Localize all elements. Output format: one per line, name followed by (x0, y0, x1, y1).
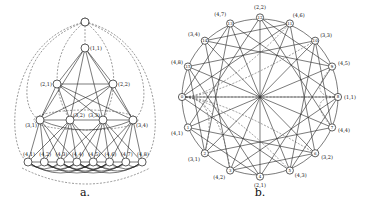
node-number: 8 (337, 94, 340, 99)
label-4-4: (4,4) (72, 151, 84, 157)
node-label: (3,3) (320, 32, 332, 38)
node-2-1 (53, 80, 61, 88)
label-4-3: (4,3) (56, 151, 68, 157)
label-3-1: (3,1) (25, 122, 37, 128)
node-4-3 (57, 158, 65, 166)
node-2-2 (109, 80, 117, 88)
node-label: (1,1) (344, 94, 356, 100)
label-2-1: (2,1) (40, 81, 52, 87)
node-label: (4,5) (338, 60, 350, 66)
node-label: (4,4) (338, 127, 350, 133)
node-4-7 (122, 158, 130, 166)
node-number: 0 (181, 94, 184, 99)
label-3-2: (3,2) (73, 112, 85, 118)
node-label: (4,6) (293, 12, 305, 18)
node-number: 1 (187, 125, 190, 130)
node-label: (4,2) (213, 174, 225, 180)
node-number: 9 (331, 64, 334, 69)
panel-a-hierarchy-diagram: (1,1)(2,1)(2,2)(3,1)(3,2)(3,3)(3,4)(4,1)… (15, 18, 156, 184)
node-label: (4,3) (295, 172, 307, 178)
figure: (1,1)(2,1)(2,2)(3,1)(3,2)(3,3)(3,4)(4,1)… (0, 0, 365, 207)
node-4-5 (89, 158, 97, 166)
node-number: 4 (259, 174, 262, 179)
label-3-3: (3,3) (88, 112, 100, 118)
node-label: (2,2) (254, 4, 266, 10)
node-number: 12 (257, 15, 263, 20)
caption-b: b. (255, 186, 266, 199)
node-4-6 (106, 158, 114, 166)
node-4-8 (138, 158, 146, 166)
label-4-8: (4,8) (137, 151, 149, 157)
node-number: 6 (314, 151, 317, 156)
node-label: (3,4) (188, 31, 200, 37)
node-label: (4,1) (171, 130, 183, 136)
node-number: 2 (204, 151, 207, 156)
node-number: 7 (331, 125, 334, 130)
panel-b-circular-diagram: 12(2,2)11(4,6)10(3,3)9(4,5)8(1,1)7(4,4)6… (171, 4, 356, 187)
node-1-1 (81, 44, 89, 52)
node-number: 11 (287, 21, 292, 26)
node-4-4 (73, 158, 81, 166)
label-2-2: (2,2) (118, 81, 130, 87)
node-label: (3,1) (188, 156, 200, 162)
label-4-5: (4,5) (88, 151, 100, 157)
node-number: 10 (313, 38, 319, 43)
label-4-2: (4,2) (39, 151, 51, 157)
node-3-3 (99, 116, 107, 124)
node-label: (4,7) (214, 11, 226, 17)
node-4-1 (24, 158, 32, 166)
label-4-1: (4,1) (23, 151, 35, 157)
node-3-1 (36, 116, 44, 124)
node-number: 13 (228, 21, 234, 26)
node-label: (4,8) (171, 59, 183, 65)
node-number: 3 (229, 168, 232, 173)
node-number: 15 (185, 64, 191, 69)
label-4-6: (4,6) (105, 151, 117, 157)
node-number: 14 (202, 38, 208, 43)
label-4-7: (4,7) (121, 151, 133, 157)
label-1-1: (1,1) (90, 45, 102, 51)
node-label: (3,2) (321, 154, 333, 160)
label-3-4: (3,4) (136, 122, 148, 128)
node-4-2 (40, 158, 48, 166)
caption-a: a. (80, 186, 90, 199)
